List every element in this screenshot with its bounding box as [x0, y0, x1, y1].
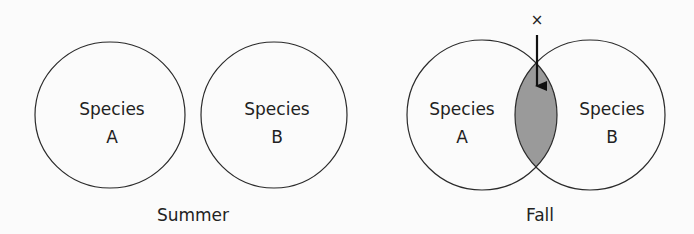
- summer-species-b-label-line1: Species: [244, 99, 310, 119]
- summer-species-b-label-line2: B: [271, 127, 283, 147]
- venn-diagram-figure: Species A Species B Summer Species A Spe…: [0, 0, 694, 234]
- fall-panel: Species A Species B × Fall: [407, 11, 665, 225]
- summer-species-a-label-line1: Species: [79, 99, 145, 119]
- fall-caption: Fall: [526, 205, 554, 225]
- summer-species-a-label-line2: A: [106, 127, 118, 147]
- fall-species-b-label-line2: B: [606, 127, 618, 147]
- summer-caption: Summer: [157, 205, 229, 225]
- summer-panel: Species A Species B Summer: [35, 42, 347, 225]
- fall-species-a-label-line1: Species: [429, 99, 495, 119]
- fall-species-b-label-line1: Species: [579, 99, 645, 119]
- x-marker-icon: ×: [531, 11, 544, 29]
- fall-species-a-label-line2: A: [456, 127, 468, 147]
